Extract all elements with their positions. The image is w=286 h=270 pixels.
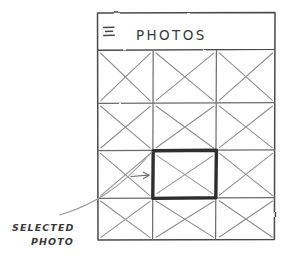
app-header: PHOTOS	[98, 27, 275, 50]
photo-grid	[98, 50, 275, 240]
arrow-right-icon	[131, 172, 149, 178]
grid-cell[interactable]	[101, 153, 151, 195]
grid-column-divider	[216, 50, 217, 240]
grid-cell[interactable]	[219, 53, 272, 101]
annotation-line-1: SELECTED	[12, 222, 75, 233]
grid-column-divider	[153, 50, 154, 240]
grid-cell[interactable]	[219, 106, 272, 148]
grid-cell[interactable]	[101, 53, 151, 101]
page-title: PHOTOS	[136, 27, 207, 43]
grid-cell[interactable]	[156, 201, 214, 237]
grid-cell[interactable]	[156, 106, 214, 148]
grid-row-divider	[98, 103, 275, 104]
grid-cell[interactable]	[101, 106, 151, 148]
header-divider	[98, 49, 275, 50]
grid-cell[interactable]	[101, 201, 151, 238]
grid-cell[interactable]	[219, 153, 272, 195]
wireframe-sketch-canvas: PHOTOS	[0, 0, 286, 270]
annotation-group: SELECTED PHOTO	[12, 152, 152, 248]
grid-cell-selected[interactable]	[157, 156, 213, 194]
grid-cell[interactable]	[219, 201, 272, 237]
hamburger-menu-icon[interactable]	[103, 27, 115, 35]
annotation-line-2: PHOTO	[31, 236, 74, 247]
grid-cell[interactable]	[156, 53, 214, 101]
